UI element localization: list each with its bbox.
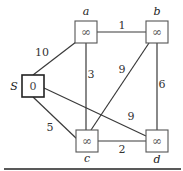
node-c: ∞c <box>76 130 98 165</box>
graph-diagram: 105913962 0S∞a∞b∞c∞d <box>0 0 183 171</box>
edge-weight-b-d: 6 <box>159 78 166 91</box>
node-b: ∞b <box>146 5 168 43</box>
node-label-S: S <box>10 80 18 93</box>
node-label-d: d <box>153 153 160 166</box>
edge-b-c <box>91 43 149 130</box>
node-a: ∞a <box>75 5 97 43</box>
node-S: 0S <box>10 75 44 97</box>
edge-weight-S-d: 9 <box>128 110 135 123</box>
node-distance-c: ∞ <box>82 134 92 148</box>
edge-weight-c-d: 2 <box>119 143 126 156</box>
node-distance-a: ∞ <box>81 25 91 39</box>
edge-weight-S-c: 5 <box>47 121 54 134</box>
node-distance-d: ∞ <box>152 134 162 148</box>
edge-weight-a-c: 3 <box>88 68 95 81</box>
node-label-a: a <box>83 5 90 18</box>
node-distance-b: ∞ <box>152 25 162 39</box>
edge-weight-S-a: 10 <box>35 46 49 59</box>
node-label-b: b <box>153 5 160 18</box>
edge-weight-a-b: 1 <box>119 19 126 32</box>
node-label-c: c <box>84 152 90 165</box>
edge-S-c <box>33 97 77 139</box>
node-distance-S: 0 <box>30 80 37 93</box>
edge-weight-b-c: 9 <box>119 63 126 76</box>
node-d: ∞d <box>146 130 168 166</box>
